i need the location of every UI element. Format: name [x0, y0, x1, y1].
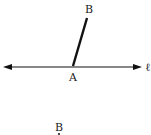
- arrowhead-right-icon: [133, 64, 142, 70]
- arrowhead-left-icon: [3, 64, 12, 70]
- label-point-a: A: [68, 71, 78, 84]
- label-point-b: B: [85, 3, 93, 16]
- label-point-b-2: B: [55, 121, 63, 134]
- diagram-canvas: B A ℓ B: [0, 0, 151, 135]
- label-line-l: ℓ: [145, 61, 150, 74]
- point-b-2: [58, 133, 60, 135]
- figure-second-point: B: [55, 121, 63, 135]
- figure-line-and-segment: B A ℓ: [3, 3, 150, 84]
- segment-ab: [73, 18, 87, 66]
